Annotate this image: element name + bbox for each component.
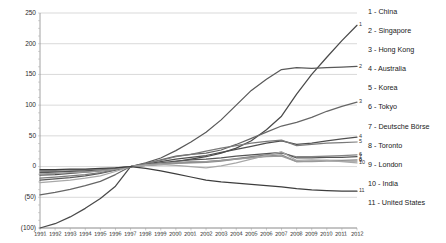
series-end-label-2: 2 [359, 64, 362, 69]
x-axis-tick-label: 2005 [245, 231, 258, 237]
legend-item-2: 2 - Singapore [368, 27, 446, 46]
x-axis-tick-label: 2003 [215, 231, 228, 237]
legend-item-3: 3 - Hong Kong [368, 46, 446, 65]
series-end-label-3: 3 [359, 99, 362, 104]
x-axis-tick-label: 1997 [124, 231, 137, 237]
x-axis-tick-label: 2007 [275, 231, 288, 237]
legend-item-8: 8 - Toronto [368, 142, 446, 161]
legend-item-5: 5 - Korea [368, 84, 446, 103]
legend-item-11: 11 - United States [368, 199, 446, 218]
x-axis-tick-label: 2009 [305, 231, 318, 237]
series-end-label-1: 1 [359, 22, 362, 27]
legend-item-4: 4 - Australia [368, 65, 446, 84]
x-axis-tick-label: 1996 [109, 231, 122, 237]
x-axis-tick-label: 1998 [139, 231, 152, 237]
x-axis-tick-label: 2000 [169, 231, 182, 237]
series-end-label-11: 11 [359, 188, 365, 193]
x-axis-tick-label: 1993 [64, 231, 77, 237]
x-axis-tick-label: 2010 [320, 231, 333, 237]
series-end-label-5: 5 [359, 139, 362, 144]
x-axis-tick-label: 2012 [351, 231, 364, 237]
x-axis-tick-label: 2004 [230, 231, 243, 237]
legend-item-9: 9 - London [368, 161, 446, 180]
series-line-3 [40, 102, 357, 195]
x-axis-tick-label: 2002 [200, 231, 213, 237]
legend-item-7: 7 - Deutsche Börse [368, 123, 446, 142]
x-axis-tick-label: 1999 [154, 231, 167, 237]
line-chart: 250200150100500(50)(100) 199119921993199… [0, 0, 446, 243]
x-axis-tick-label: 1991 [34, 231, 47, 237]
x-axis-tick-label: 1994 [79, 231, 92, 237]
legend-item-1: 1 - China [368, 8, 446, 27]
series-end-label-10: 10 [359, 160, 365, 165]
x-axis-tick-label: 2008 [290, 231, 303, 237]
x-axis-tick-label: 2001 [184, 231, 197, 237]
legend-item-6: 6 - Tokyo [368, 103, 446, 122]
x-axis-tick-label: 2006 [260, 231, 273, 237]
legend-item-10: 10 - India [368, 180, 446, 199]
x-axis-tick-label: 1992 [49, 231, 62, 237]
legend: 1 - China2 - Singapore3 - Hong Kong4 - A… [368, 8, 446, 218]
x-axis-tick-label: 1995 [94, 231, 107, 237]
x-axis-tick-label: 2011 [335, 231, 347, 237]
